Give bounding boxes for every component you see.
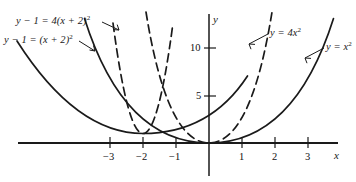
curve-label-narrow: y = 4x2	[270, 28, 301, 39]
x-tick-label-neg2: −2	[136, 152, 147, 163]
curve-label-shifted-wide: y − 1 = (x + 2)2	[4, 35, 73, 46]
y-tick-label-10: 10	[190, 43, 201, 54]
leader-arrowhead-narrow	[249, 44, 255, 49]
x-axis-label: x	[334, 150, 339, 161]
x-tick-label-3: 3	[305, 152, 310, 163]
leader-arrowhead-wide	[305, 58, 311, 63]
y-tick-marks	[204, 48, 216, 96]
x-tick-label-2: 2	[272, 152, 277, 163]
y-axis-label: y	[213, 14, 218, 25]
x-tick-label-1: 1	[239, 152, 244, 163]
parabola-figure: y x −3 −2 −1 1 2 3 5 10 y − 1 = 4(x + 2)…	[0, 0, 356, 182]
curve-label-shifted-narrow: y − 1 = 4(x + 2)2	[16, 16, 90, 27]
x-tick-label-neg1: −1	[169, 152, 180, 163]
curve-label-wide: y = x2	[326, 42, 352, 53]
leader-line-shifted-narrow	[102, 22, 119, 30]
curve-y-minus-1-eq-4x-plus-2-squared	[113, 23, 173, 134]
x-tick-label-neg3: −3	[103, 152, 114, 163]
y-tick-label-5: 5	[196, 91, 201, 102]
leader-line-narrow	[249, 34, 268, 44]
